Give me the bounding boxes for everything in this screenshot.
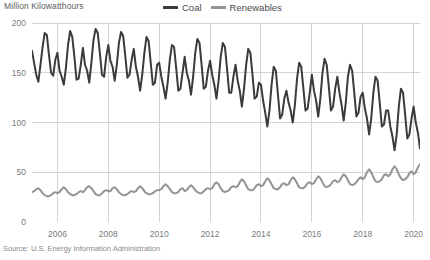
x-tick-label: 2020	[404, 229, 423, 239]
x-tick-label: 2014	[252, 229, 271, 239]
x-tick-label: 2008	[99, 229, 118, 239]
x-tick-label: 2016	[302, 229, 321, 239]
chart-container: Million Kilowatthours Coal Renewables 05…	[0, 0, 430, 260]
x-tick-label: 2012	[201, 229, 220, 239]
x-tick-label: 2010	[150, 229, 169, 239]
x-tick-label: 2006	[48, 229, 67, 239]
x-axis-tick-labels: 20062008201020122014201620182020	[0, 0, 430, 260]
source-note: Source: U.S. Energy Information Administ…	[3, 244, 160, 253]
x-tick-label: 2018	[353, 229, 372, 239]
